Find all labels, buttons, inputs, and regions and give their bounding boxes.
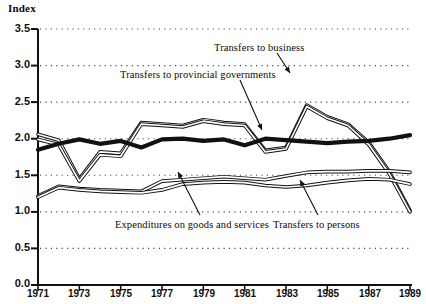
series-expenditures-on-goods-and-services [38,135,410,150]
axes [31,29,412,291]
series-lines [38,105,410,212]
annotation-arrow [277,53,290,73]
series-line-outline [38,105,410,210]
series-transfers-to-provincial-governments [38,105,410,210]
y-tick-marks [31,29,38,285]
arrow-head [285,67,290,73]
series-line [38,135,410,150]
annotation-arrows [178,53,318,215]
